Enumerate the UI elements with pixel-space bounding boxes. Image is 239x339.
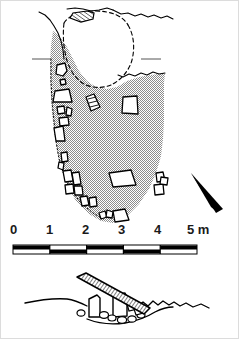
orthostat-left [89,295,100,317]
cross-section-view [1,1,239,339]
packing-stone [108,315,116,321]
packing-stone [117,317,126,324]
packing-stone [128,316,136,322]
packing-stone [77,310,85,316]
packing-stone [100,312,109,319]
figure-frame: 0 1 2 3 4 5 m [0,0,239,339]
